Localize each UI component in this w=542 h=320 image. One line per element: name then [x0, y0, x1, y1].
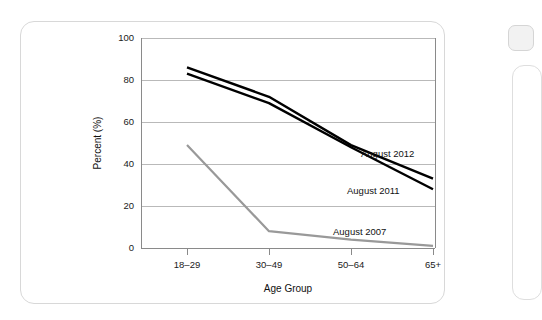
- y-tick-label: 80: [123, 74, 134, 85]
- edge-panel-top-decoration: [508, 25, 534, 51]
- series-label-august-2011: August 2011: [347, 185, 400, 196]
- x-axis-tick-labels: 18–29 30–49 50–64 65+: [174, 259, 442, 270]
- edge-panel-body-decoration: [512, 65, 542, 300]
- x-tick-label: 65+: [425, 259, 442, 270]
- y-axis-tick-labels: 100 80 60 40 20 0: [118, 32, 134, 253]
- series-line-august-2011: [187, 74, 433, 190]
- plot-frame: [141, 38, 435, 248]
- y-tick-label: 60: [123, 116, 134, 127]
- figure-card: 100 80 60 40 20 0 Percent (%): [20, 21, 445, 304]
- y-tick-label: 100: [118, 32, 134, 43]
- series-label-august-2007: August 2007: [333, 226, 386, 237]
- series-line-august-2012: [187, 67, 433, 178]
- y-tick-label: 20: [123, 200, 134, 211]
- x-tick-label: 30–49: [256, 259, 282, 270]
- y-axis-title: Percent (%): [92, 117, 103, 170]
- grid-lines: [141, 38, 435, 206]
- y-tick-label: 40: [123, 158, 134, 169]
- line-chart: 100 80 60 40 20 0 Percent (%): [21, 22, 446, 305]
- x-axis-title: Age Group: [264, 283, 313, 294]
- chart-svg: 100 80 60 40 20 0 Percent (%): [21, 22, 446, 305]
- x-tick-label: 50–64: [338, 259, 364, 270]
- series-annotations: August 2012 August 2011 August 2007: [333, 148, 414, 237]
- x-axis-tick-marks: [187, 248, 433, 255]
- y-tick-label: 0: [129, 242, 134, 253]
- series-label-august-2012: August 2012: [361, 148, 414, 159]
- x-tick-label: 18–29: [174, 259, 200, 270]
